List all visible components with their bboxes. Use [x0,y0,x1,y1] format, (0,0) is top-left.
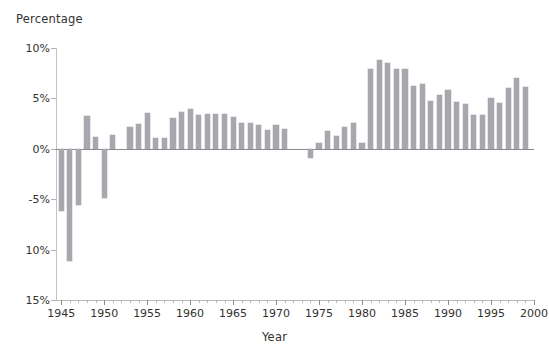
bar [420,84,425,149]
bar [514,78,519,149]
y-axis-tick-label: 10% [26,42,50,55]
y-axis-tick [51,48,56,49]
bar [402,69,407,149]
bar [170,118,175,149]
x-axis-tick-minor [414,300,415,303]
x-axis-tick-minor [371,300,372,303]
bar [205,114,210,149]
bar [256,125,261,149]
x-axis-tick-minor [267,300,268,303]
bar [437,95,442,148]
bar [188,109,193,148]
x-axis-tick-minor [207,300,208,303]
x-axis-tick-minor [87,300,88,303]
x-axis-tick-minor [250,300,251,303]
bar [316,143,321,149]
x-axis-tick-minor [525,300,526,303]
x-axis-tick-major [190,300,191,305]
x-axis-tick-minor [328,300,329,303]
x-axis-tick-major [491,300,492,305]
x-axis-tick-minor [353,300,354,303]
bar [145,113,150,149]
x-axis-tick-minor [431,300,432,303]
y-axis-tick-label: 10% [26,243,50,256]
x-axis-tick-minor [259,300,260,303]
bar [93,137,98,149]
x-axis-tick-minor [156,300,157,303]
x-axis-tick-major [362,300,363,305]
x-axis-line [56,300,534,301]
x-axis-tick-minor [216,300,217,303]
bar [471,115,476,149]
x-axis-tick-minor [70,300,71,303]
x-axis-tick-minor [130,300,131,303]
bar [273,125,278,149]
bar [196,115,201,149]
x-axis-tick-minor [336,300,337,303]
bar [488,98,493,148]
bar [162,138,167,149]
y-axis-tick-label: 5% [33,92,50,105]
bar [59,149,64,211]
bar [76,149,81,205]
bar [84,116,89,149]
x-axis-tick-label: 1995 [477,307,505,320]
x-axis-tick-label: 1965 [219,307,247,320]
x-axis-tick-major [448,300,449,305]
x-axis-tick-minor [457,300,458,303]
x-axis-tick-minor [96,300,97,303]
bar [445,90,450,148]
bar [265,130,270,149]
x-axis-tick-minor [422,300,423,303]
bar [179,112,184,149]
bar [454,102,459,148]
x-axis-tick-minor [379,300,380,303]
x-axis-tick-minor [121,300,122,303]
y-axis-tick-label: 15% [26,294,50,307]
bar [222,114,227,149]
x-axis-tick-major [233,300,234,305]
x-axis-tick-major [104,300,105,305]
bar [359,143,364,149]
y-axis-title: Percentage [16,12,83,26]
y-axis-tick [51,250,56,251]
x-axis-tick-minor [78,300,79,303]
bar [377,60,382,149]
plot-area: 10%5%0%-5%10%15% 19451950195519601965197… [56,48,534,300]
x-axis-tick-minor [388,300,389,303]
x-axis-tick-major [276,300,277,305]
x-axis-tick-major [405,300,406,305]
y-axis-tick [51,199,56,200]
bar [325,131,330,149]
x-axis-tick-minor [302,300,303,303]
bar [110,135,115,149]
bar [102,149,107,198]
x-axis-tick-minor [199,300,200,303]
x-axis-tick-label: 1975 [305,307,333,320]
zero-baseline [56,149,534,150]
bar [334,136,339,149]
x-axis-tick-minor [173,300,174,303]
x-axis-tick-minor [474,300,475,303]
bar [239,123,244,149]
bar [523,87,528,148]
bar [428,101,433,148]
x-axis-tick-label: 1990 [434,307,462,320]
x-axis-tick-minor [182,300,183,303]
x-axis-tick-label: 1985 [391,307,419,320]
x-axis-tick-minor [285,300,286,303]
bar [394,69,399,149]
bar [67,149,72,261]
x-axis-tick-label: 1955 [133,307,161,320]
y-axis-tick-label: -5% [29,193,50,206]
bar [282,129,287,149]
x-axis-tick-minor [508,300,509,303]
x-axis-tick-major [319,300,320,305]
bar [248,123,253,149]
x-axis-tick-major [61,300,62,305]
bar [411,86,416,148]
bar [506,88,511,148]
bar [308,149,313,158]
x-axis-tick-minor [396,300,397,303]
x-axis-tick-label: 1980 [348,307,376,320]
